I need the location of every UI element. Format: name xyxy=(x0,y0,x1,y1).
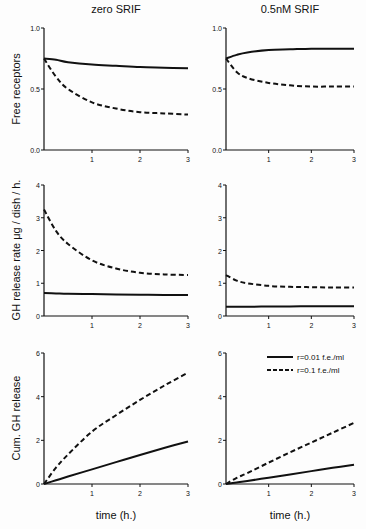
solid-line xyxy=(44,293,188,295)
solid-line xyxy=(44,59,188,69)
ylabel-release-rate: GH release rate μg / dish / h. xyxy=(10,180,22,321)
xlabel-right: time (h.) xyxy=(270,509,310,521)
y-tick-label: 0 xyxy=(218,481,222,488)
y-tick-label: 0 xyxy=(36,313,40,320)
panel-2: 01234123 xyxy=(36,182,190,329)
y-tick-label: 3 xyxy=(218,215,222,222)
legend-dashed-label: r=0.1 f.e./ml xyxy=(297,366,340,375)
y-tick-label: 2 xyxy=(36,437,40,444)
y-tick-label: 0 xyxy=(36,481,40,488)
x-tick-label: 1 xyxy=(90,322,94,329)
ylabel-free-receptors: Free receptors xyxy=(10,53,22,125)
y-tick-label: 4 xyxy=(218,394,222,401)
y-tick-label: 4 xyxy=(36,394,40,401)
x-tick-label: 2 xyxy=(309,322,313,329)
col-title-zero-srif: zero SRIF xyxy=(91,3,141,15)
y-tick-label: 6 xyxy=(36,350,40,357)
x-tick-label: 3 xyxy=(186,156,190,163)
solid-line xyxy=(44,441,188,484)
chart-grid: zero SRIF 0.5nM SRIF Free receptors GH r… xyxy=(0,0,366,529)
x-tick-label: 3 xyxy=(186,490,190,497)
panel-1: 0.00.51.0123 xyxy=(212,25,356,163)
y-tick-label: 1 xyxy=(218,280,222,287)
col-title-srif: 0.5nM SRIF xyxy=(261,3,320,15)
y-tick-label: 2 xyxy=(218,248,222,255)
x-tick-label: 2 xyxy=(138,156,142,163)
y-tick-label: 0 xyxy=(218,313,222,320)
y-tick-label: 4 xyxy=(36,182,40,189)
y-tick-label: 1 xyxy=(36,280,40,287)
panel-4: 0246123 xyxy=(36,350,190,497)
panels: 0.00.51.01230.00.51.01230123412301234123… xyxy=(30,25,356,497)
y-tick-label: 6 xyxy=(218,350,222,357)
dashed-line xyxy=(44,373,188,484)
x-tick-label: 2 xyxy=(138,490,142,497)
y-tick-label: 0.0 xyxy=(212,147,222,154)
x-tick-label: 2 xyxy=(309,156,313,163)
y-tick-label: 2 xyxy=(36,248,40,255)
x-tick-label: 1 xyxy=(267,490,271,497)
panel-3: 01234123 xyxy=(218,182,356,329)
y-tick-label: 3 xyxy=(36,215,40,222)
x-tick-label: 2 xyxy=(138,322,142,329)
y-tick-label: 1.0 xyxy=(212,25,222,32)
y-tick-label: 0.5 xyxy=(30,86,40,93)
dashed-line xyxy=(226,59,354,87)
legend: r=0.01 f.e./ml r=0.1 f.e./ml xyxy=(267,353,344,375)
solid-line xyxy=(226,306,354,307)
legend-solid-label: r=0.01 f.e./ml xyxy=(297,353,344,362)
dashed-line xyxy=(226,275,354,287)
dashed-line xyxy=(44,210,188,276)
x-tick-label: 3 xyxy=(352,490,356,497)
figure: zero SRIF 0.5nM SRIF Free receptors GH r… xyxy=(0,0,366,529)
x-tick-label: 3 xyxy=(186,322,190,329)
x-tick-label: 1 xyxy=(90,490,94,497)
y-tick-label: 0.0 xyxy=(30,147,40,154)
x-tick-label: 1 xyxy=(267,156,271,163)
panel-0: 0.00.51.0123 xyxy=(30,25,190,163)
solid-line xyxy=(226,465,354,484)
y-tick-label: 4 xyxy=(218,182,222,189)
x-tick-label: 1 xyxy=(267,322,271,329)
ylabel-cum-release: Cum. GH release xyxy=(10,376,22,461)
y-tick-label: 0.5 xyxy=(212,86,222,93)
x-tick-label: 1 xyxy=(90,156,94,163)
xlabel-left: time (h.) xyxy=(96,509,136,521)
y-tick-label: 1.0 xyxy=(30,25,40,32)
x-tick-label: 2 xyxy=(309,490,313,497)
x-tick-label: 3 xyxy=(352,322,356,329)
solid-line xyxy=(226,49,354,59)
x-tick-label: 3 xyxy=(352,156,356,163)
y-tick-label: 2 xyxy=(218,437,222,444)
